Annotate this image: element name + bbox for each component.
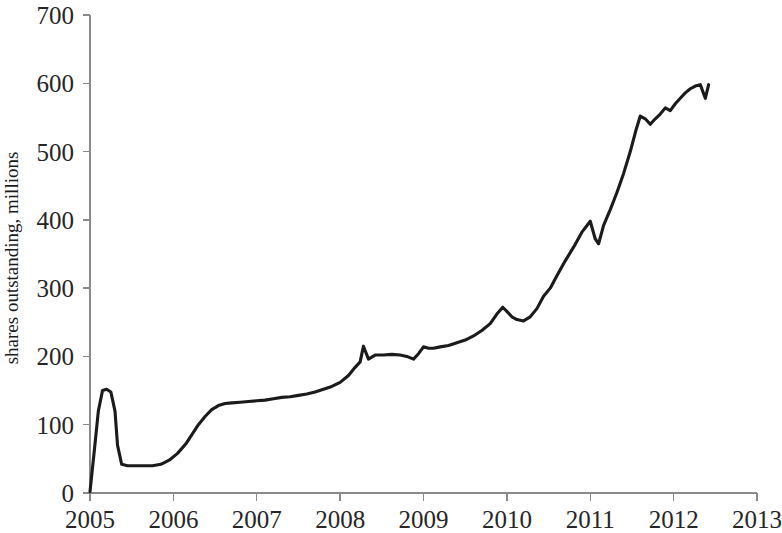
y-tick-label: 400 [37, 207, 75, 234]
y-tick-label: 0 [62, 480, 75, 507]
y-tick-label: 100 [37, 412, 75, 439]
y-tick-label: 300 [37, 275, 75, 302]
y-tick-label: 700 [37, 2, 75, 29]
y-tick-label: 600 [37, 70, 75, 97]
x-tick-label: 2010 [482, 506, 532, 533]
x-tick-label: 2005 [65, 506, 115, 533]
y-axis-tick-group [83, 15, 90, 493]
x-tick-label: 2011 [566, 506, 615, 533]
y-axis-tick-labels: 0100200300400500600700 [37, 2, 75, 507]
x-tick-label: 2007 [232, 506, 282, 533]
line-chart: 0100200300400500600700 20052006200720082… [0, 0, 782, 533]
y-axis-title: shares outstanding, millions [1, 152, 22, 365]
chart-container: 0100200300400500600700 20052006200720082… [0, 0, 782, 533]
y-tick-label: 500 [37, 139, 75, 166]
x-tick-label: 2006 [148, 506, 198, 533]
x-tick-label: 2009 [399, 506, 449, 533]
x-tick-label: 2012 [649, 506, 699, 533]
x-tick-label: 2013 [732, 506, 782, 533]
x-axis-tick-labels: 200520062007200820092010201120122013 [65, 506, 782, 533]
y-tick-label: 200 [37, 343, 75, 370]
x-tick-label: 2008 [315, 506, 365, 533]
data-series-line [90, 85, 709, 492]
x-axis-tick-group [90, 493, 757, 501]
